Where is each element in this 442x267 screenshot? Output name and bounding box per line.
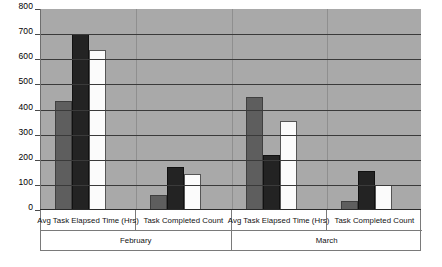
- bar: [358, 171, 375, 210]
- y-axis-tick-label: 400: [19, 103, 33, 112]
- y-axis-tick-label: 200: [19, 153, 33, 162]
- y-axis-tick-label: 600: [19, 52, 33, 61]
- plot-area: [40, 9, 421, 210]
- bar-chart: 8007006005004003002001000 Avg Task Elaps…: [0, 0, 442, 267]
- bar: [375, 185, 392, 210]
- y-axis-tick-label: 100: [19, 178, 33, 187]
- gridline: [41, 135, 421, 136]
- group-label: March: [232, 230, 423, 250]
- y-axis-tick-label: 800: [19, 2, 33, 11]
- category-label: Avg Task Elapsed Time (Hrs): [41, 210, 136, 230]
- y-axis-tick-label: 500: [19, 77, 33, 86]
- gridline: [41, 160, 421, 161]
- group-row: FebruaryMarch: [41, 230, 420, 250]
- bar: [167, 167, 184, 210]
- group-label: February: [41, 230, 232, 250]
- gridline: [41, 59, 421, 60]
- y-axis-tick-label: 700: [19, 27, 33, 36]
- gridline: [41, 185, 421, 186]
- gridline: [41, 110, 421, 111]
- y-axis-tick-label: 300: [19, 128, 33, 137]
- bar: [184, 174, 201, 210]
- bar: [89, 50, 106, 210]
- category-label-table: Avg Task Elapsed Time (Hrs)Task Complete…: [40, 210, 421, 251]
- bar: [72, 34, 89, 210]
- category-label: Avg Task Elapsed Time (Hrs): [232, 210, 327, 230]
- bar: [246, 97, 263, 210]
- bar: [55, 101, 72, 210]
- y-axis: 8007006005004003002001000: [0, 9, 40, 210]
- category-label: Task Completed Count: [136, 210, 231, 230]
- gridline: [41, 84, 421, 85]
- category-row: Avg Task Elapsed Time (Hrs)Task Complete…: [41, 210, 420, 230]
- bar: [263, 155, 280, 210]
- gridline: [41, 34, 421, 35]
- bar: [150, 195, 167, 210]
- category-label: Task Completed Count: [327, 210, 422, 230]
- y-axis-tick-label: 0: [28, 203, 33, 212]
